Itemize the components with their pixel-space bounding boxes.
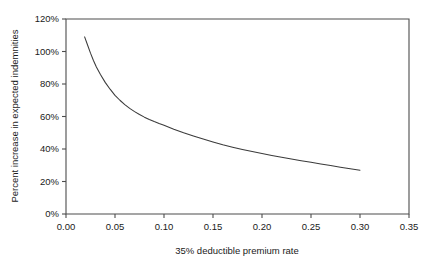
plot-frame bbox=[66, 19, 409, 214]
y-tick-label: 20% bbox=[40, 176, 60, 187]
y-axis-ticks bbox=[62, 19, 66, 214]
axis-frame bbox=[66, 19, 409, 214]
y-tick-label: 80% bbox=[40, 78, 60, 89]
chart-figure: 0%20%40%60%80%100%120% 0.000.050.100.150… bbox=[0, 0, 430, 267]
x-tick-label: 0.35 bbox=[400, 221, 419, 232]
data-series-line bbox=[85, 37, 360, 170]
y-tick-label: 100% bbox=[35, 46, 60, 57]
series-group bbox=[85, 37, 360, 170]
x-tick-label: 0.10 bbox=[155, 221, 174, 232]
chart-canvas: 0%20%40%60%80%100%120% 0.000.050.100.150… bbox=[0, 0, 430, 267]
x-axis-tick-labels: 0.000.050.100.150.200.250.300.35 bbox=[57, 221, 419, 232]
x-tick-label: 0.20 bbox=[253, 221, 272, 232]
x-tick-label: 0.25 bbox=[302, 221, 321, 232]
y-tick-label: 120% bbox=[35, 13, 60, 24]
y-tick-label: 40% bbox=[40, 143, 60, 154]
x-tick-label: 0.00 bbox=[57, 221, 76, 232]
x-tick-label: 0.05 bbox=[106, 221, 125, 232]
x-axis-title: 35% deductible premium rate bbox=[175, 245, 299, 256]
y-tick-label: 0% bbox=[45, 208, 59, 219]
x-tick-label: 0.30 bbox=[351, 221, 370, 232]
x-tick-label: 0.15 bbox=[204, 221, 223, 232]
y-axis-title: Percent increase in expected indemnities bbox=[9, 29, 20, 202]
y-tick-label: 60% bbox=[40, 111, 60, 122]
y-axis-tick-labels: 0%20%40%60%80%100%120% bbox=[35, 13, 60, 219]
x-axis-ticks bbox=[66, 214, 409, 218]
